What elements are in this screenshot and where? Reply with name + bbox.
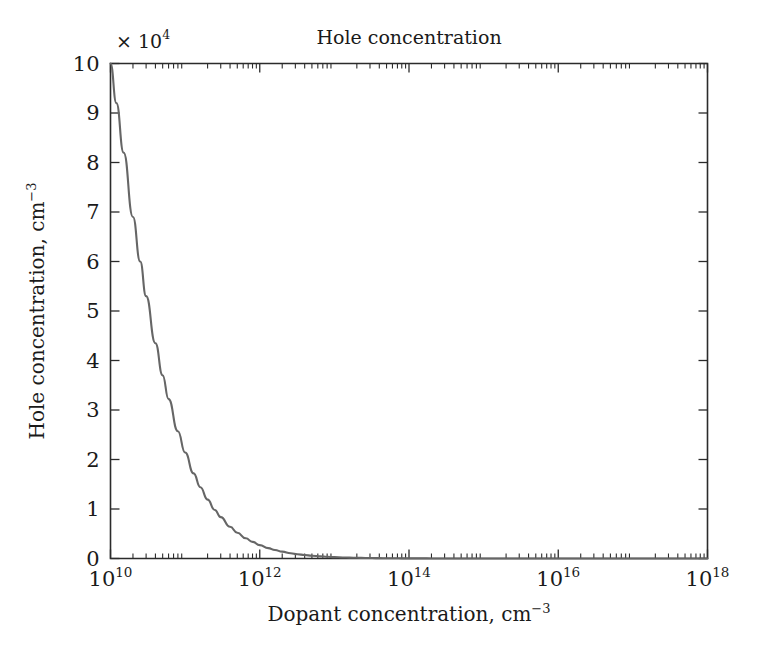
- y-tick-label: 6: [86, 250, 99, 274]
- y-tick-label: 8: [86, 151, 99, 175]
- x-axis-title: Dopant concentration, cm−3: [267, 601, 550, 626]
- y-tick-label: 0: [86, 547, 99, 571]
- y-tick-label: 2: [86, 448, 99, 472]
- y-axis-multiplier: × 104: [116, 27, 170, 52]
- y-tick-label: 7: [86, 200, 99, 224]
- y-tick-label: 4: [86, 349, 99, 373]
- y-tick-label: 1: [86, 497, 99, 521]
- hole-concentration-plot: 10101012101410161018 012345678910 × 104 …: [0, 0, 759, 646]
- y-tick-label: 5: [86, 299, 99, 323]
- y-tick-label: 10: [73, 52, 100, 76]
- y-tick-label: 3: [86, 398, 99, 422]
- y-axis-title: Hole concentration, cm−3: [24, 182, 49, 439]
- plot-title: Hole concentration: [316, 26, 501, 48]
- chart-figure: 10101012101410161018 012345678910 × 104 …: [0, 0, 759, 646]
- y-tick-label: 9: [86, 101, 99, 125]
